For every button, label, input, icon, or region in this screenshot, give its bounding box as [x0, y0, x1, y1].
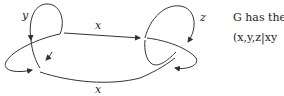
label-x-top: x: [95, 20, 101, 31]
left-inner-strand: [31, 40, 40, 68]
label-x-bottom: x: [95, 84, 101, 95]
left-down-arrow: [46, 52, 52, 60]
knot-diagram-figure: y x x z G has the (x,y,z|xy: [0, 0, 284, 96]
text-line-2: (x,y,z|xy: [233, 32, 277, 43]
top-arc-x: [64, 33, 140, 38]
label-y: y: [22, 10, 28, 21]
right-tail-strand: [140, 58, 175, 78]
right-crossing-strand: [147, 38, 197, 69]
label-z: z: [200, 12, 206, 23]
text-line-1: G has the: [233, 12, 284, 23]
right-loop-strand: [145, 6, 194, 42]
bottom-arc-x: [40, 72, 140, 82]
